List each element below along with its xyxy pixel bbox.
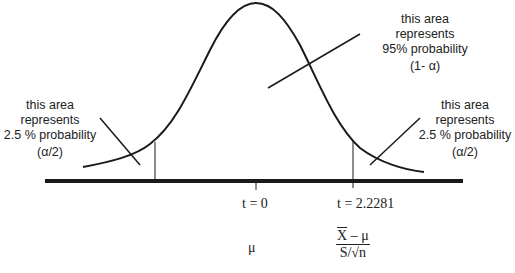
- left-label-line2: represents: [0, 113, 100, 128]
- formula-denominator: S/√n: [336, 245, 370, 261]
- center-label-line3: 95% probability: [360, 42, 490, 57]
- left-tail-label: this area represents 2.5 % probability (…: [0, 98, 100, 160]
- center-label-line2: represents: [360, 27, 490, 42]
- right-label-line3: 2.5 % probability: [415, 128, 515, 143]
- s-over-sqrt: S/√: [340, 245, 359, 260]
- right-label-line4: (α/2): [415, 145, 515, 160]
- center-pointer: [268, 34, 360, 88]
- left-label-line4: (α/2): [0, 145, 100, 160]
- left-label-line3: 2.5 % probability: [0, 128, 100, 143]
- mu-label: μ: [248, 240, 256, 256]
- center-label-line4: (1- α): [360, 59, 490, 74]
- t-critical-label: t = 2.2281: [337, 196, 394, 212]
- center-area-label: this area represents 95% probability (1-…: [360, 12, 490, 74]
- left-label-line1: this area: [0, 98, 100, 113]
- center-label-line1: this area: [360, 12, 490, 27]
- t-zero-label: t = 0: [242, 196, 268, 212]
- x-bar: X: [337, 228, 347, 243]
- n: n: [359, 244, 366, 260]
- minus-mu: – μ: [347, 228, 369, 243]
- right-pointer: [370, 118, 420, 165]
- right-label-line2: represents: [415, 113, 515, 128]
- x-axis: [45, 179, 463, 183]
- formula-numerator: X – μ: [336, 228, 370, 245]
- right-label-line1: this area: [415, 98, 515, 113]
- right-tail-label: this area represents 2.5 % probability (…: [415, 98, 515, 160]
- t-statistic-formula: X – μ S/√n: [336, 228, 370, 261]
